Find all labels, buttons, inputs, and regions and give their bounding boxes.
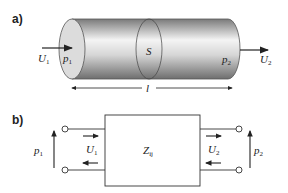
inlet-velocity-label: U1: [38, 52, 50, 66]
diagram-canvas: U1 p1 S p2 U2 l Zij U1 U2 p1 p2: [0, 0, 288, 193]
inlet-end-cap: [59, 19, 85, 79]
left-velocity-label: U1: [86, 143, 98, 157]
section-label: S: [146, 45, 152, 57]
right-pressure-label: p2: [253, 144, 264, 158]
left-top-terminal: [62, 126, 68, 132]
outlet-velocity-label: U2: [260, 53, 272, 67]
right-top-terminal: [236, 126, 242, 132]
left-pressure-label: p1: [33, 144, 44, 158]
right-velocity-label: U2: [208, 143, 220, 157]
left-bottom-terminal: [62, 167, 68, 173]
right-bottom-terminal: [236, 167, 242, 173]
length-label: l: [146, 82, 149, 94]
